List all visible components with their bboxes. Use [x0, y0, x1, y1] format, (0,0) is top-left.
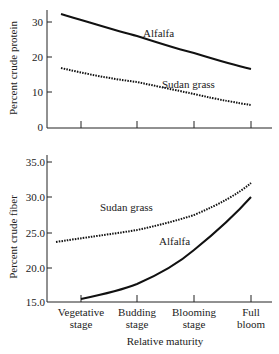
protein-sudan-line: [61, 68, 251, 105]
tick-label: 20: [32, 51, 44, 63]
fiber-alfalfa-label: Alfalfa: [159, 235, 190, 247]
fiber-y-ticks: 35.0 30.0 25.0 20.0 15.0: [26, 156, 52, 308]
fiber-x-categories: Vegetative stage Budding stage Blooming …: [58, 306, 266, 330]
fiber-sudan-line: [56, 183, 251, 242]
fiber-sudan-label: Sudan grass: [100, 201, 153, 213]
tick-label: 30.0: [26, 191, 46, 203]
protein-sudan-label: Sudan grass: [162, 78, 215, 90]
tick-label: 10: [32, 86, 44, 98]
chart-figure: Percent crude protein 30 20 10 0 Alfalfa…: [0, 0, 279, 354]
x-category-line2: bloom: [237, 318, 266, 330]
fiber-x-axis-label: Relative maturity: [127, 335, 204, 347]
x-category-line2: stage: [183, 318, 206, 330]
protein-alfalfa-label: Alfalfa: [143, 27, 174, 39]
tick-label: 15.0: [26, 296, 46, 308]
tick-label: 30: [32, 16, 44, 28]
protein-chart: Percent crude protein 30 20 10 0 Alfalfa…: [7, 10, 272, 133]
protein-y-axis-label: Percent crude protein: [7, 20, 19, 115]
fiber-x-ticks: [81, 295, 251, 302]
tick-label: 35.0: [26, 156, 46, 168]
protein-x-ticks: [81, 121, 251, 128]
x-category-line2: stage: [70, 318, 93, 330]
x-category-line1: Budding: [118, 306, 156, 318]
tick-label: 25.0: [26, 227, 46, 239]
fiber-chart: Percent crude fiber 35.0 30.0 25.0 20.0 …: [7, 155, 272, 347]
x-category-line1: Full: [242, 306, 260, 318]
x-category-line1: Blooming: [172, 306, 217, 318]
protein-alfalfa-line: [61, 14, 251, 69]
x-category-line1: Vegetative: [58, 306, 105, 318]
x-category-line2: stage: [126, 318, 149, 330]
tick-label: 0: [38, 121, 44, 133]
tick-label: 20.0: [26, 262, 46, 274]
fiber-y-axis-label: Percent crude fiber: [7, 195, 19, 279]
protein-y-ticks: 30 20 10 0: [32, 16, 52, 133]
